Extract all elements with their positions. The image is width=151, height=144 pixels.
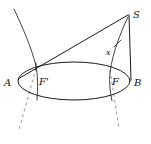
label-focus-left: F' [38, 76, 49, 87]
figure-canvas: S A B F' F x [0, 0, 151, 144]
label-apex-S: S [133, 9, 140, 20]
curve-left-branch [14, 9, 38, 100]
label-focus-right: F [111, 76, 120, 87]
segment-x-tick [114, 40, 121, 47]
label-vertex-A: A [3, 77, 11, 88]
label-segment-x: x [106, 48, 111, 57]
label-vertex-B: B [133, 77, 141, 88]
vertical-line-S-to-B [129, 15, 131, 80]
slant-line-S-to-A [18, 15, 128, 79]
conic-diagram: S A B F' F x [0, 0, 151, 144]
